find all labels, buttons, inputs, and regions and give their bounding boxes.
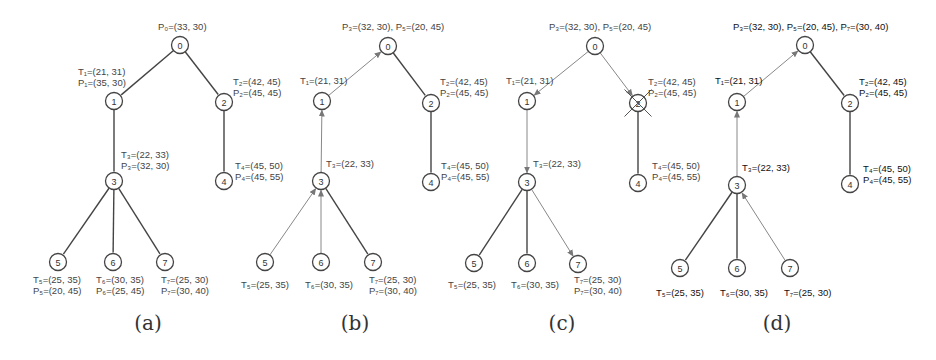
node-annotation: T₅=(25, 35) (241, 279, 289, 290)
tree-node-7: 7 (157, 254, 174, 271)
node-annotation: P₄=(45, 55) (652, 171, 701, 182)
node-id-label: 1 (524, 97, 529, 107)
node-annotation: T₆=(30, 35) (96, 274, 144, 285)
node-id-label: 1 (111, 97, 116, 107)
node-id-label: 6 (734, 264, 739, 274)
node-annotation: T₄=(45, 50) (863, 163, 911, 174)
diagram-figure: 01234567P₀=(33, 30)T₁=(21, 31)P₁=(35, 30… (0, 0, 936, 360)
node-annotation: T₇=(25, 30) (161, 274, 208, 285)
tree-node-4: 4 (842, 176, 859, 193)
node-annotation: T₄=(45, 50) (235, 160, 283, 171)
tree-node-3: 3 (106, 173, 123, 190)
node-annotation: T₇=(25, 30) (784, 287, 831, 298)
node-annotation: P₄=(45, 55) (441, 171, 490, 182)
tree-node-0: 0 (797, 37, 814, 54)
message-arrow-5-3 (270, 189, 316, 255)
node-id-label: 5 (471, 259, 476, 269)
tree-node-5: 5 (466, 255, 483, 272)
node-annotation: T₃=(22, 33) (533, 158, 581, 169)
node-id-label: 7 (370, 258, 375, 268)
node-annotation: P₅=(20, 45) (33, 285, 81, 296)
tree-node-5: 5 (50, 254, 67, 271)
message-arrow-3-7 (531, 189, 572, 256)
tree-node-2: 2 (423, 95, 440, 112)
tree-node-1: 1 (729, 94, 746, 111)
node-annotation: T₆=(30, 35) (305, 279, 353, 290)
node-annotation: T₆=(30, 35) (511, 279, 559, 290)
tree-node-5: 5 (672, 260, 689, 277)
node-annotation: T₆=(30, 35) (720, 287, 768, 298)
node-annotation: P₄=(45, 55) (235, 171, 284, 182)
node-annotation: T₃=(22, 33) (121, 149, 169, 160)
node-annotation: P₆=(25, 45) (96, 285, 144, 296)
node-id-label: 5 (677, 264, 682, 274)
node-annotation: P₃=(32, 30), P₅=(20, 45) (549, 21, 651, 32)
node-id-label: 6 (318, 258, 323, 268)
node-annotation: T₂=(42, 45) (440, 76, 488, 87)
tree-node-3: 3 (519, 174, 536, 191)
node-annotation: P₃=(32, 30), P₅=(20, 45) (342, 21, 444, 32)
tree-node-4: 4 (630, 175, 647, 192)
node-id-label: 5 (55, 258, 60, 268)
node-annotation: P₇=(30, 40) (369, 285, 417, 296)
tree-edge-3-5 (63, 188, 109, 254)
node-id-label: 4 (428, 178, 433, 188)
tree-node-6: 6 (729, 260, 746, 277)
tree-node-7: 7 (365, 254, 382, 271)
node-annotation: T₃=(22, 33) (326, 158, 374, 169)
tree-node-0: 0 (380, 38, 397, 55)
node-id-label: 4 (635, 179, 640, 189)
node-id-label: 7 (575, 260, 580, 270)
node-id-label: 6 (110, 258, 115, 268)
node-id-label: 2 (221, 98, 226, 108)
message-arrow-1-0 (329, 52, 381, 95)
tree-node-5: 5 (257, 254, 274, 271)
panels-root: 01234567P₀=(33, 30)T₁=(21, 31)P₁=(35, 30… (33, 21, 912, 335)
tree-node-7: 7 (782, 260, 799, 277)
node-annotation: T₁=(21, 31) (715, 75, 762, 86)
node-annotation: P₄=(45, 55) (863, 174, 912, 185)
node-annotation: T₅=(25, 35) (656, 287, 704, 298)
node-annotation: P₁=(35, 30) (78, 77, 126, 88)
node-id-label: 3 (734, 181, 739, 191)
node-annotation: P₇=(30, 40) (161, 285, 209, 296)
panel-caption-c: (c) (549, 311, 576, 335)
node-annotation: T₇=(25, 30) (369, 274, 416, 285)
tree-node-1: 1 (519, 93, 536, 110)
node-annotation: T₄=(45, 50) (652, 160, 700, 171)
node-annotation: T₃=(22, 33) (742, 162, 790, 173)
node-annotation: T₄=(45, 50) (441, 160, 489, 171)
node-id-label: 0 (385, 42, 390, 52)
tree-edge-3-5 (685, 192, 732, 260)
tree-edge-0-2 (393, 53, 425, 96)
node-annotation: P₇=(30, 40) (574, 285, 622, 296)
node-id-label: 6 (524, 259, 529, 269)
tree-node-6: 6 (519, 255, 536, 272)
node-id-label: 7 (162, 258, 167, 268)
node-annotation: T₁=(21, 31) (78, 66, 125, 77)
node-annotation: P₀=(33, 30) (158, 21, 207, 32)
node-id-label: 4 (221, 177, 226, 187)
message-arrow-7-3 (742, 193, 785, 261)
node-annotation: T₁=(21, 31) (300, 75, 347, 86)
node-id-label: 1 (319, 97, 324, 107)
node-annotation: T₅=(25, 35) (448, 279, 496, 290)
tree-edge-3-6 (113, 189, 114, 252)
node-annotation: T₂=(42, 45) (233, 76, 281, 87)
tree-node-0: 0 (172, 37, 189, 54)
node-annotation: T₂=(42, 45) (648, 76, 696, 87)
node-annotation: P₂=(45, 45) (440, 87, 488, 98)
node-annotation: T₁=(21, 31) (506, 75, 553, 86)
node-annotation: T₇=(25, 30) (574, 274, 621, 285)
tree-node-1: 1 (106, 93, 123, 110)
tree-node-6: 6 (105, 254, 122, 271)
node-annotation: T₂=(42, 45) (859, 76, 907, 87)
node-annotation: P₂=(45, 45) (859, 87, 907, 98)
message-arrow-0-1 (534, 51, 588, 95)
tree-node-0: 0 (587, 38, 604, 55)
tree-edge-3-7 (119, 188, 160, 254)
panel-caption-d: (d) (763, 311, 791, 335)
tree-node-4: 4 (423, 174, 440, 191)
node-id-label: 1 (734, 98, 739, 108)
tree-edge-3-5 (479, 189, 522, 255)
